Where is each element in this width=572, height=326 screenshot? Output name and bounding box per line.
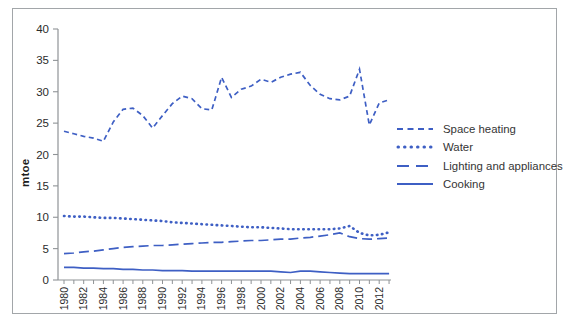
solid-line-icon bbox=[396, 180, 434, 188]
x-tick-label: 1998 bbox=[235, 287, 247, 311]
x-tick-label: 2012 bbox=[373, 287, 385, 311]
legend-item-cooking: Cooking bbox=[396, 179, 563, 190]
series-line-space-heating bbox=[64, 69, 389, 141]
x-tick-label: 1986 bbox=[117, 287, 129, 311]
legend: Space heating Water Lighting and applian… bbox=[396, 123, 563, 190]
x-tick-label: 2010 bbox=[353, 287, 365, 311]
series-line-cooking bbox=[64, 267, 389, 273]
legend-item-lighting-and-appliances: Lighting and appliances bbox=[396, 160, 563, 171]
dashed-line-icon bbox=[396, 125, 434, 133]
series-line-lighting-and-appliances bbox=[64, 233, 389, 254]
x-tick-label: 2004 bbox=[294, 287, 306, 311]
legend-label: Cooking bbox=[443, 178, 485, 190]
x-tick-label: 2000 bbox=[255, 287, 267, 311]
legend-item-water: Water bbox=[396, 142, 563, 153]
x-tick-label: 1996 bbox=[215, 287, 227, 311]
legend-label: Water bbox=[443, 141, 473, 153]
x-tick-label: 1984 bbox=[97, 287, 109, 311]
y-tick-label: 30 bbox=[36, 86, 49, 98]
y-tick-label: 5 bbox=[43, 243, 49, 255]
x-tick-label: 2006 bbox=[314, 287, 326, 311]
y-tick-label: 40 bbox=[36, 23, 49, 35]
long-dash-line-icon bbox=[396, 162, 434, 170]
x-tick-label: 1980 bbox=[58, 287, 70, 311]
dotted-line-icon bbox=[396, 143, 434, 151]
x-tick-label: 1988 bbox=[136, 287, 148, 311]
y-tick-label: 25 bbox=[36, 117, 49, 129]
x-tick-label: 1982 bbox=[77, 287, 89, 311]
x-tick-label: 2002 bbox=[274, 287, 286, 311]
y-tick-label: 35 bbox=[36, 54, 49, 66]
x-tick-label: 1990 bbox=[156, 287, 168, 311]
y-axis-title: mtoe bbox=[19, 159, 31, 187]
legend-item-space-heating: Space heating bbox=[396, 123, 563, 134]
legend-label: Space heating bbox=[443, 123, 516, 135]
y-tick-label: 0 bbox=[43, 274, 49, 286]
x-tick-label: 1994 bbox=[195, 287, 207, 311]
y-tick-label: 20 bbox=[36, 149, 49, 161]
legend-label: Lighting and appliances bbox=[443, 160, 563, 172]
chart-figure: { "figure": { "frame_color": "#a2a6a9", … bbox=[0, 0, 572, 326]
y-tick-label: 10 bbox=[36, 211, 49, 223]
x-tick-label: 1992 bbox=[176, 287, 188, 311]
y-tick-label: 15 bbox=[36, 180, 49, 192]
x-tick-label: 2008 bbox=[333, 287, 345, 311]
